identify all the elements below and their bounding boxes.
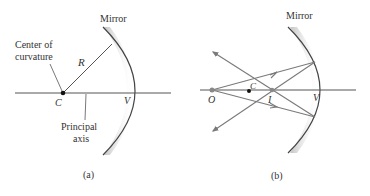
radius-line	[63, 44, 112, 93]
radius-label: R	[77, 56, 85, 68]
image-point-label: I	[267, 94, 272, 105]
concave-mirror-diagram: Mirror Center of curvature R C V Princip…	[0, 0, 370, 196]
center-of-curvature-label-1: Center of	[15, 39, 53, 50]
center-of-curvature-label-2: curvature	[15, 51, 53, 62]
object-point-dot	[210, 88, 215, 93]
mirror-label: Mirror	[286, 10, 313, 21]
mirror-label: Mirror	[100, 13, 127, 24]
reflected-ray-from-bottom	[213, 52, 315, 117]
incident-ray-upper	[212, 62, 315, 90]
center-pointer-line	[50, 64, 62, 91]
panel-a: Mirror Center of curvature R C V Princip…	[15, 13, 171, 181]
image-point-dot	[270, 88, 275, 93]
principal-axis-label-2: axis	[73, 133, 89, 144]
incident-ray-lower	[212, 90, 315, 117]
object-point-label: O	[208, 94, 215, 105]
caption-a: (a)	[83, 169, 94, 181]
principal-axis-label-1: Principal	[61, 121, 97, 132]
reflected-ray-from-top	[213, 62, 315, 131]
center-point-label: C	[55, 97, 62, 108]
center-of-curvature-dot	[61, 91, 66, 96]
axis-pointer-line	[85, 94, 86, 120]
panel-b: Mirror O C I V (b)	[200, 10, 356, 182]
center-point-label: C	[250, 81, 257, 91]
caption-b: (b)	[271, 170, 283, 182]
